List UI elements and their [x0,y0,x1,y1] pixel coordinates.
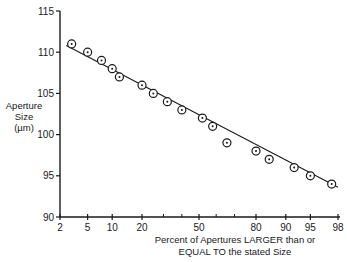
y-tick-label: 95 [43,170,55,181]
x-axis-label-line-2: EQUAL TO the stated Size [120,246,347,258]
data-point-center [87,51,89,53]
chart-canvas: 90951001051101152510205080909598 [0,0,347,262]
y-tick-label: 105 [37,88,54,99]
data-point-center [141,84,143,86]
x-tick-label: 98 [332,222,344,233]
x-tick-label: 95 [305,222,317,233]
y-axis-label-line-3: (µm) [4,122,44,133]
y-tick-label: 110 [38,47,54,58]
y-axis-label-line-2: Size [4,111,44,122]
data-point-center [201,117,203,119]
x-tick-label: 90 [280,222,292,233]
x-axis-label-line-1: Percent of Apertures LARGER than or [120,234,347,246]
data-point-center [111,68,113,70]
x-tick-label: 20 [136,222,148,233]
y-axis-label-line-1: Aperture [4,100,44,111]
x-tick-label: 5 [85,222,91,233]
data-point-center [226,142,228,144]
data-point-center [255,150,257,152]
data-point-center [71,43,73,45]
data-point-center [166,101,168,103]
data-point-center [331,183,333,185]
x-axis-label: Percent of Apertures LARGER than or EQUA… [120,234,347,258]
x-tick-label: 80 [250,222,262,233]
x-tick-label: 50 [193,222,205,233]
data-point-center [181,109,183,111]
data-point-center [268,158,270,160]
data-point-center [293,167,295,169]
x-tick-label: 10 [107,222,119,233]
y-tick-label: 90 [43,212,55,223]
data-point-center [152,92,154,94]
data-point-center [101,59,103,61]
x-tick-label: 2 [57,222,63,233]
y-axis-label: Aperture Size (µm) [4,100,44,133]
data-point-center [118,76,120,78]
data-point-center [309,175,311,177]
data-point-center [212,125,214,127]
y-tick-label: 115 [38,6,54,17]
